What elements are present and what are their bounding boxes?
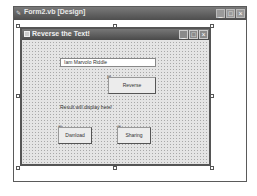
form-close-button[interactable]: × xyxy=(199,30,208,39)
resize-handle-bottom-left[interactable] xyxy=(16,166,20,170)
maximize-button[interactable]: □ xyxy=(226,9,235,18)
sharing-button[interactable]: Sharing xyxy=(117,127,151,144)
result-label: Result will display here! xyxy=(60,104,112,110)
download-button[interactable]: Dwnload xyxy=(58,127,92,144)
designer-title: Form2.vb [Design] xyxy=(24,8,85,15)
form-maximize-button[interactable]: □ xyxy=(189,30,198,39)
form-icon xyxy=(24,31,30,37)
form-minimize-button[interactable]: _ xyxy=(179,30,188,39)
minimize-button[interactable]: _ xyxy=(216,9,225,18)
form-reverse-text[interactable]: Reverse the Text! _ □ × Iam Marvolo Ridd… xyxy=(20,27,211,166)
form-title: Reverse the Text! xyxy=(32,30,90,37)
designer-app-icon: ✎ xyxy=(16,10,22,16)
input-textbox[interactable]: Iam Marvolo Riddle xyxy=(60,58,156,67)
resize-handle-bottom-right[interactable] xyxy=(210,166,214,170)
designer-title-bar[interactable]: ✎ Form2.vb [Design] _ □ × xyxy=(14,7,246,20)
form-title-bar[interactable]: Reverse the Text! _ □ × xyxy=(22,29,209,40)
close-button[interactable]: × xyxy=(236,9,245,18)
resize-handle-bottom[interactable] xyxy=(113,166,117,170)
reverse-button[interactable]: Reverse xyxy=(108,77,156,94)
